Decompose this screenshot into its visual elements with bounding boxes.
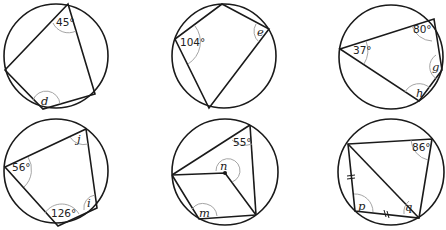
angle-variable: i [87,196,91,210]
diagram-f: 86° p q [338,119,444,225]
angle-variable: n [220,159,227,173]
quadrilateral [175,4,269,108]
angle-variable: q [405,200,412,214]
circle [172,4,276,108]
diagram-d: 56° j 126° i [4,119,108,226]
angle-label: 56° [12,161,31,173]
angle-variable: g [432,60,439,74]
diagram-e: 55° n m [172,119,278,225]
angle-variable: h [416,86,423,100]
angle-variable: e [257,25,264,39]
angle-label: 86° [412,141,431,153]
angle-label: 37° [353,44,372,56]
cyclic-quadrilaterals-figure: 45° d 104° e 37° 80° g h 56° j 126° i [0,0,446,230]
angle-label: 55° [233,136,252,148]
angle-label: 104° [180,36,205,48]
angle-variable: d [41,94,48,108]
angle-label: 126° [51,207,76,219]
diagram-a: 45° d [4,4,108,109]
chord [172,125,250,175]
angle-variable: p [358,199,366,213]
diagram-b: 104° e [172,4,276,108]
angle-variable: m [199,206,210,220]
angle-label: 80° [413,23,432,35]
circle [338,119,444,225]
diagram-c: 37° 80° g h [339,5,443,109]
angle-label: 45° [56,16,75,28]
